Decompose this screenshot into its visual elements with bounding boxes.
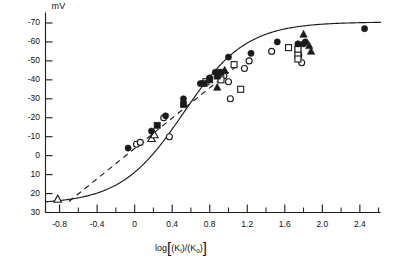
y-axis-tick-label: -40 <box>2 74 40 84</box>
data-point-open-triangle <box>54 195 62 202</box>
y-axis-tick-label: -60 <box>2 36 40 46</box>
data-point-open-square <box>286 45 292 51</box>
data-point-open-circle <box>269 48 275 54</box>
data-point-filled-circle <box>361 26 367 32</box>
y-axis-tick-label: -70 <box>2 17 40 27</box>
data-point-filled-square <box>207 77 213 83</box>
data-point-open-circle <box>246 58 252 64</box>
data-point-open-circle <box>241 65 247 71</box>
x-axis-tick-label: 0.8 <box>190 219 230 229</box>
data-point-filled-circle <box>248 50 254 56</box>
data-point-filled-circle <box>163 113 169 119</box>
data-point-open-circle <box>166 134 172 140</box>
x-axis-tick-label: 1.2 <box>227 219 267 229</box>
data-point-open-square <box>231 62 237 68</box>
y-axis-tick-label: -30 <box>2 93 40 103</box>
bracket-close-icon: ] <box>203 239 207 256</box>
x-axis-tick-label: 0.4 <box>152 219 192 229</box>
data-point-filled-triangle <box>300 30 307 37</box>
data-point-filled-circle <box>274 39 280 45</box>
data-point-filled-circle <box>225 54 231 60</box>
x-axis-tick-label: -0.8 <box>40 219 80 229</box>
data-point-filled-circle <box>148 128 154 134</box>
x-axis-tick-label: -0.4 <box>77 219 117 229</box>
data-point-filled-triangle <box>214 83 221 90</box>
data-point-open-square <box>238 86 244 92</box>
x-axis-label: log[(Ki)/(Ko)] <box>155 239 207 256</box>
data-point-filled-circle <box>295 41 301 47</box>
data-point-open-circle <box>225 79 231 85</box>
data-point-filled-circle <box>125 145 131 151</box>
x-axis-tick-label: 0 <box>115 219 155 229</box>
data-point-filled-square <box>180 101 186 107</box>
data-point-filled-circle <box>180 96 186 102</box>
y-axis-tick-label: 30 <box>2 207 40 217</box>
x-axis-tick-label: 1.6 <box>265 219 305 229</box>
y-axis-tick-label: -50 <box>2 55 40 65</box>
data-point-open-square <box>295 47 301 53</box>
x-axis-tick-label: 2.4 <box>340 219 380 229</box>
y-axis-tick-label: -10 <box>2 131 40 141</box>
x-axis-label-log: log <box>155 243 167 253</box>
data-point-filled-square <box>154 122 160 128</box>
y-axis-tick-label: -20 <box>2 112 40 122</box>
y-axis-tick-label: 20 <box>2 188 40 198</box>
sigmoid-fit-curve <box>46 22 381 201</box>
y-axis-tick-label: 10 <box>2 169 40 179</box>
data-point-open-circle <box>137 139 143 145</box>
data-point-open-circle <box>227 96 233 102</box>
x-axis-label-ratio: (Ki)/(Ko) <box>171 243 203 253</box>
x-axis-tick-label: 2.0 <box>302 219 342 229</box>
data-point-filled-square <box>201 81 207 87</box>
y-axis-tick-label: 0 <box>2 150 40 160</box>
figure-container: mV log[(Ki)/(Ko)] -70-60-50-40-30-20-100… <box>0 0 393 267</box>
data-point-open-square <box>295 56 301 62</box>
